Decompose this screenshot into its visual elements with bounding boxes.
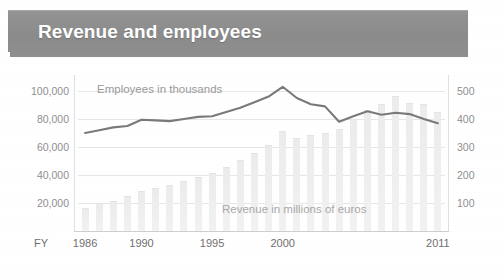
left-axis-tick-60000: 60,000 xyxy=(37,142,69,153)
chart-title-bar: Revenue and employees xyxy=(8,10,468,57)
chart-area: Employees in thousands Revenue in millio… xyxy=(0,58,503,280)
x-axis-tick-1990: 1990 xyxy=(129,238,153,249)
left-axis-tick-20000: 20,000 xyxy=(37,198,69,209)
chart-figure: Revenue and employees Employees in thous… xyxy=(0,0,503,280)
left-axis-tick-40000: 40,000 xyxy=(37,170,69,181)
employees-series-label: Employees in thousands xyxy=(97,83,222,95)
fiscal-year-label: FY xyxy=(34,238,48,249)
left-axis-tick-80000: 80,000 xyxy=(37,114,69,125)
right-axis-tick-100: 100 xyxy=(457,198,475,209)
x-axis-tick-1995: 1995 xyxy=(200,238,224,249)
revenue-series-label: Revenue in millions of euros xyxy=(222,203,366,215)
right-axis-spine xyxy=(448,75,449,232)
right-axis-tick-300: 300 xyxy=(457,142,475,153)
x-axis-tick-2000: 2000 xyxy=(270,238,294,249)
page-title: Revenue and employees xyxy=(38,21,262,43)
right-axis-tick-400: 400 xyxy=(457,114,475,125)
left-axis-spine xyxy=(74,75,75,232)
x-axis-baseline xyxy=(74,231,449,232)
right-axis-tick-500: 500 xyxy=(457,86,475,97)
right-axis-tick-200: 200 xyxy=(457,170,475,181)
x-axis-tick-1986: 1986 xyxy=(73,238,97,249)
plot-area: Employees in thousands Revenue in millio… xyxy=(78,77,445,231)
x-axis-tick-2011: 2011 xyxy=(426,238,450,249)
left-axis-tick-100000: 100,000 xyxy=(31,86,69,97)
